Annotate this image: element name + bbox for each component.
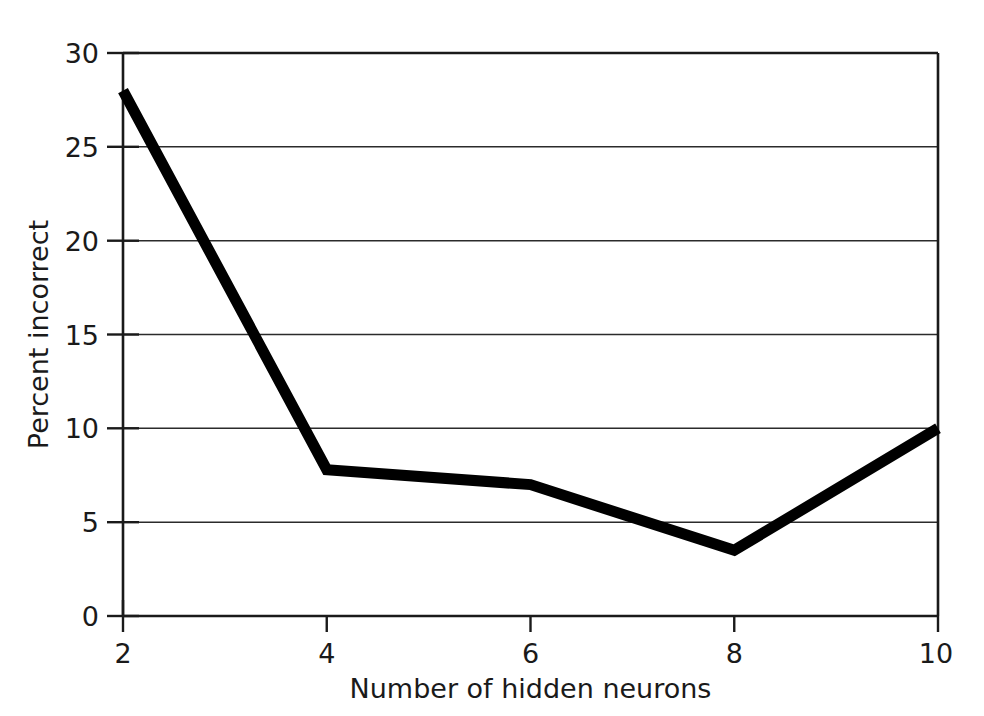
y-tick-label-25: 25 (65, 132, 99, 163)
y-tick-label-0: 0 (82, 601, 99, 632)
x-tick-label-10: 10 (919, 638, 953, 669)
x-tick-label-8: 8 (726, 638, 743, 669)
y-tick-label-5: 5 (82, 507, 99, 538)
y-tick-label-20: 20 (65, 226, 99, 257)
y-tick-label-15: 15 (65, 320, 99, 351)
x-axis-title: Number of hidden neurons (350, 673, 712, 704)
y-axis-title: Percent incorrect (23, 220, 54, 449)
x-tick-label-4: 4 (318, 638, 335, 669)
chart-figure: 0 5 10 15 20 25 30 2 4 6 8 10 Number of … (0, 0, 984, 716)
line-chart: 0 5 10 15 20 25 30 2 4 6 8 10 Number of … (0, 0, 984, 716)
x-tick-label-2: 2 (114, 638, 131, 669)
x-tick-label-6: 6 (522, 638, 539, 669)
y-tick-label-10: 10 (65, 413, 99, 444)
y-tick-label-30: 30 (65, 38, 99, 69)
